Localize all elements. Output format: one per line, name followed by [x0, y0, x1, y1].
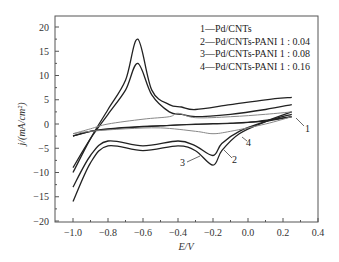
y-tick-label: −15 [33, 191, 49, 202]
x-axis-title: E/V [178, 241, 196, 252]
legend-entry-4: 4—Pd/CNTs-PANI 1 : 0.16 [200, 61, 310, 72]
legend-entry-2: 2—Pd/CNTs-PANI 1 : 0.04 [200, 36, 310, 47]
y-tick-label: 0 [44, 119, 49, 130]
legend-entry-3: 3—Pd/CNTs-PANI 1 : 0.08 [200, 48, 310, 59]
legend-entry-1: 1—Pd/CNTs [200, 23, 252, 34]
annotation-label-1: 1 [305, 123, 310, 134]
x-tick-label: −0.4 [169, 227, 187, 238]
curve-annotations: 1234 [180, 118, 310, 168]
legend: 1—Pd/CNTs2—Pd/CNTs-PANI 1 : 0.043—Pd/CNT… [200, 23, 310, 72]
x-tick-label: 0.0 [242, 227, 255, 238]
annotation-label-2: 2 [232, 154, 237, 165]
series-1-reverse [73, 117, 292, 136]
y-tick-label: −20 [33, 216, 49, 227]
annotation-leader-2 [224, 150, 232, 158]
y-tick-label: 5 [44, 94, 49, 105]
x-tick-label: −0.8 [99, 227, 117, 238]
x-tick-label: −1.0 [64, 227, 82, 238]
y-tick-label: −10 [33, 167, 49, 178]
y-axis-title: j/(mA/cm²) [16, 102, 28, 148]
x-tick-label: −0.2 [204, 227, 222, 238]
annotation-label-4: 4 [246, 137, 251, 148]
y-tick-label: 20 [39, 22, 49, 33]
series-1-forward [73, 117, 292, 136]
annotation-label-3: 3 [180, 157, 185, 168]
annotation-leader-1 [296, 118, 304, 126]
x-tick-label: −0.6 [134, 227, 152, 238]
y-tick-label: −5 [38, 143, 49, 154]
cv-chart: −1.0−0.8−0.6−0.4−0.20.00.20.420151050−5−… [0, 0, 339, 262]
y-tick-label: 10 [39, 70, 49, 81]
series-2-forward [73, 63, 292, 167]
annotation-leader-3 [187, 156, 200, 162]
x-tick-label: 0.2 [277, 227, 290, 238]
y-tick-label: 15 [39, 46, 49, 57]
x-tick-label: 0.4 [312, 227, 325, 238]
series-3-forward [73, 39, 292, 172]
